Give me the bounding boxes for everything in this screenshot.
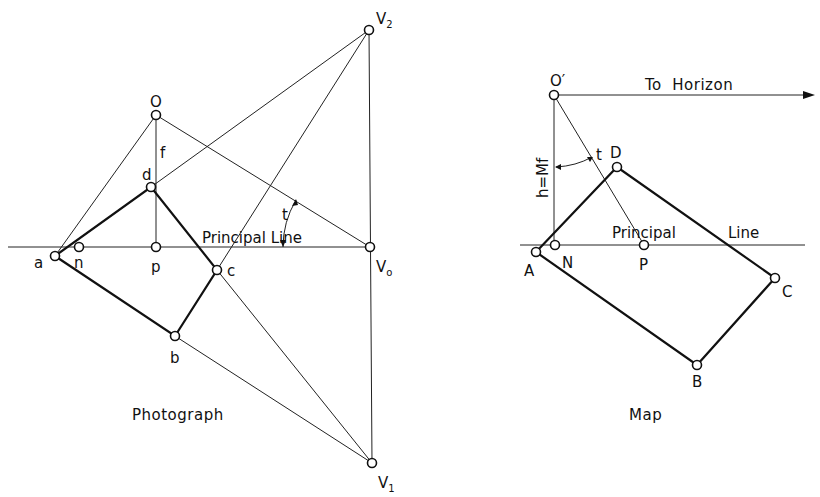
photo-principal-line-label: Principal Line <box>202 229 302 247</box>
photo-label-O: O <box>150 93 162 111</box>
photo-O-a-line <box>55 115 156 256</box>
photo-point-c <box>213 266 222 275</box>
photograph-panel: O f d a n p c b t Principal Line V2 Vo V… <box>8 10 395 494</box>
photo-label-V2: V2 <box>376 10 393 30</box>
photo-point-p <box>152 243 161 252</box>
photo-point-O <box>152 111 161 120</box>
photo-label-b: b <box>170 349 180 367</box>
map-point-N <box>551 241 560 250</box>
map-principal-label: Principal <box>612 224 676 242</box>
photo-tilt-arrow-top <box>292 199 298 206</box>
photo-label-f: f <box>160 144 166 162</box>
photo-label-p: p <box>151 258 161 276</box>
photo-label-c: c <box>227 262 235 280</box>
map-height-label: h=Mf <box>534 157 552 198</box>
map-tilt-arrow-left <box>555 164 561 170</box>
photo-caption: Photograph <box>132 406 224 424</box>
photo-label-t: t <box>282 206 288 224</box>
photo-point-V2 <box>365 26 374 35</box>
map-label-B: B <box>692 373 702 391</box>
map-tilt-arc <box>556 157 592 167</box>
photo-point-V1 <box>368 459 377 468</box>
map-line-label: Line <box>728 224 759 242</box>
map-label-N: N <box>562 254 573 272</box>
photo-V2-d-line <box>151 30 369 187</box>
photo-O-Vo-line <box>156 115 370 247</box>
map-label-t: t <box>596 146 602 164</box>
map-label-D: D <box>610 144 622 162</box>
map-label-A: A <box>524 262 535 280</box>
photo-label-Vo: Vo <box>376 258 392 278</box>
map-horizon-label: To Horizon <box>644 76 733 94</box>
photo-b-V1-line <box>175 336 372 463</box>
map-point-C <box>771 274 780 283</box>
photo-point-a <box>51 252 60 261</box>
photo-point-Vo <box>366 243 375 252</box>
map-point-D <box>613 163 622 172</box>
map-caption: Map <box>629 406 662 424</box>
map-label-O-prime: O′ <box>550 72 566 90</box>
map-horizon-arrowhead-icon <box>803 91 815 99</box>
perspective-diagram: O f d a n p c b t Principal Line V2 Vo V… <box>0 0 820 497</box>
photo-point-b <box>171 332 180 341</box>
map-label-C: C <box>782 283 792 301</box>
map-point-A <box>532 248 541 257</box>
photo-point-n <box>75 243 84 252</box>
photo-label-n: n <box>74 254 84 272</box>
map-O-P-line <box>554 95 644 245</box>
map-point-B <box>693 361 702 370</box>
map-panel: O′ To Horizon D t A N P C B Principal Li… <box>520 72 815 424</box>
map-label-P: P <box>639 256 648 274</box>
map-point-O-prime <box>550 91 559 100</box>
photo-c-V1-line <box>217 270 372 463</box>
photo-label-d: d <box>142 166 152 184</box>
photo-label-V1: V1 <box>378 474 395 494</box>
photo-label-a: a <box>34 254 43 272</box>
